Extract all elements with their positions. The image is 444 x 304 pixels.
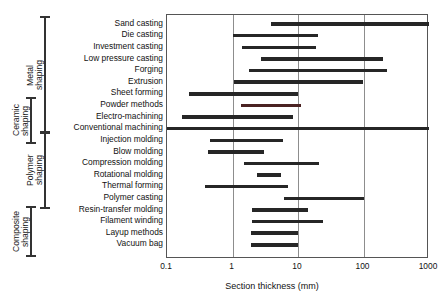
category-label-sheet-forming: Sheet forming xyxy=(30,88,163,96)
bar-electro-machining xyxy=(182,115,293,119)
bar-filament-winding xyxy=(252,220,323,224)
category-label-forging: Forging xyxy=(30,65,163,73)
x-tick-1: 1 xyxy=(229,262,234,271)
bar-thermal-forming xyxy=(205,185,288,189)
section-thickness-chart: Metal shaping Ceramic shaping Polymer sh… xyxy=(0,0,444,304)
category-label-filament-winding: Filament winding xyxy=(30,216,163,224)
gridline-1 xyxy=(233,15,234,257)
category-label-compression-molding: Compression molding xyxy=(30,158,163,166)
category-label-layup-methods: Layup methods xyxy=(30,228,163,236)
category-label-vacuum-bag: Vacuum bag xyxy=(30,239,163,247)
group-label-composite-shaping: Composite shaping xyxy=(12,206,31,257)
x-tick-100: 100 xyxy=(356,262,370,271)
bar-polymer-casting xyxy=(284,197,364,201)
category-label-investment-casting: Investment casting xyxy=(30,42,163,50)
bar-sand-casting xyxy=(271,22,430,26)
category-label-low-pressure-casting: Low pressure casting xyxy=(30,54,163,62)
category-label-polymer-casting: Polymer casting xyxy=(30,193,163,201)
plot-area xyxy=(166,14,428,258)
category-label-electro-machining: Electro-machining xyxy=(30,112,163,120)
gridline-100 xyxy=(364,15,365,257)
category-label-extrusion: Extrusion xyxy=(30,77,163,85)
bar-conventional-machining xyxy=(167,127,429,131)
bar-powder-methods xyxy=(241,104,301,108)
bar-resin-transfer-molding xyxy=(252,208,307,212)
x-tick-0.1: 0.1 xyxy=(160,262,172,271)
category-label-blow-molding: Blow molding xyxy=(30,147,163,155)
bar-compression-molding xyxy=(244,162,319,166)
category-label-thermal-forming: Thermal forming xyxy=(30,181,163,189)
bar-forging xyxy=(249,69,387,73)
category-label-powder-methods: Powder methods xyxy=(30,100,163,108)
bar-layup-methods xyxy=(251,231,298,235)
category-label-resin-transfer-molding: Resin-transfer molding xyxy=(30,205,163,213)
x-tick-1000: 1000 xyxy=(419,262,438,271)
bar-vacuum-bag xyxy=(251,243,298,247)
category-label-die-casting: Die casting xyxy=(30,30,163,38)
bar-investment-casting xyxy=(242,46,316,50)
x-axis-title: Section thickness (mm) xyxy=(0,281,444,291)
category-label-conventional-machining: Conventional machining xyxy=(30,123,163,131)
bar-low-pressure-casting xyxy=(261,57,384,61)
bar-extrusion xyxy=(234,80,364,84)
bar-injection-molding xyxy=(210,139,284,143)
bar-die-casting xyxy=(233,34,318,38)
bar-blow-molding xyxy=(208,150,264,154)
bar-sheet-forming xyxy=(189,92,298,96)
x-tick-10: 10 xyxy=(292,262,301,271)
category-label-sand-casting: Sand casting xyxy=(30,19,163,27)
bar-rotational-molding xyxy=(257,173,281,177)
category-label-rotational-molding: Rotational molding xyxy=(30,170,163,178)
x-axis-title-text: Section thickness (mm) xyxy=(125,281,319,291)
category-label-injection-molding: Injection molding xyxy=(30,135,163,143)
